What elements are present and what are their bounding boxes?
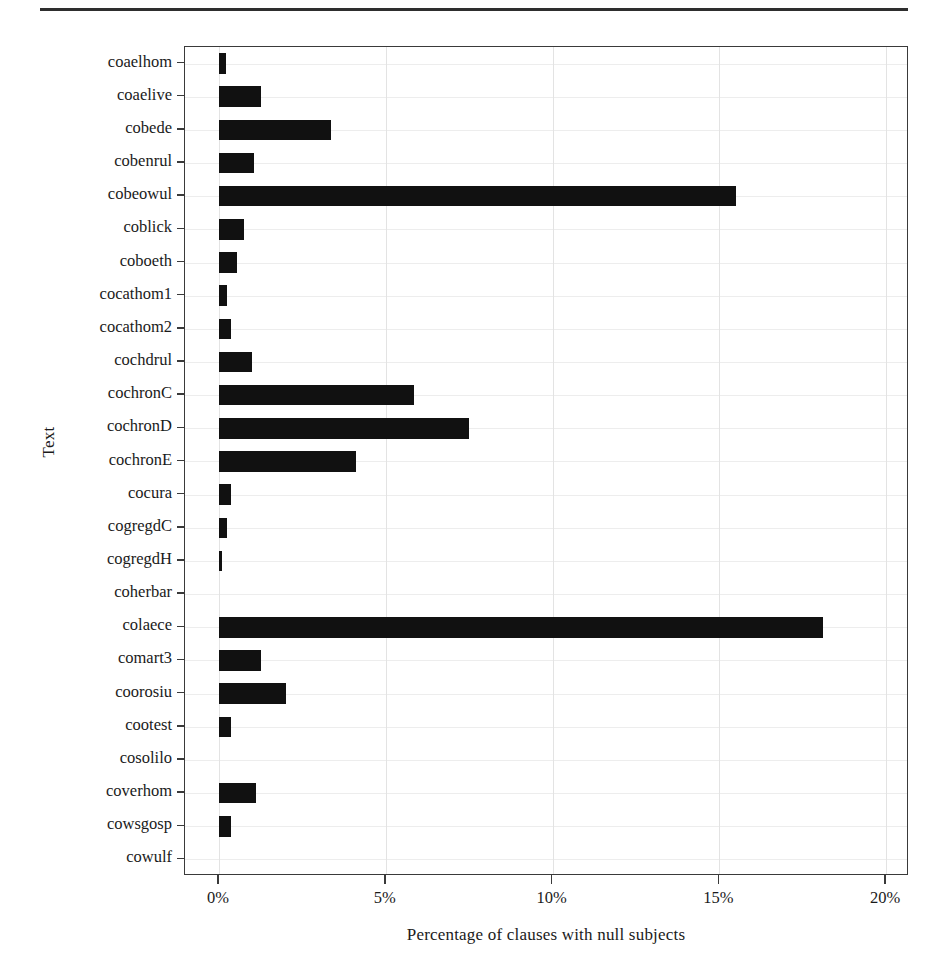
y-tick-mark — [177, 825, 184, 827]
y-tick-mark — [177, 725, 184, 727]
bar-cocura — [219, 484, 231, 505]
y-tick-mark — [177, 626, 184, 628]
y-tick-mark — [177, 427, 184, 429]
y-tick-label-cocathom2: cocathom2 — [100, 319, 184, 336]
bar-cochdrul — [219, 352, 252, 373]
bar-cobede — [219, 120, 331, 141]
y-tick-mark — [177, 128, 184, 130]
bar-coverhom — [219, 783, 256, 804]
y-tick-label-cogregdC: cogregdC — [108, 518, 184, 535]
bar-coaelhom — [219, 53, 226, 74]
x-tick-mark — [384, 875, 386, 884]
y-tick-mark — [177, 261, 184, 263]
y-tick-mark — [177, 493, 184, 495]
y-tick-label-cocura: cocura — [128, 485, 184, 502]
y-tick-label-coaelhom: coaelhom — [108, 54, 184, 71]
bar-cochronE — [219, 451, 356, 472]
y-tick-label-cochdrul: cochdrul — [114, 352, 184, 369]
bar-row — [185, 617, 907, 638]
bar-row — [185, 551, 907, 572]
y-tick-label-coherbar: coherbar — [114, 584, 184, 601]
y-tick-mark — [177, 460, 184, 462]
x-tick-mark — [551, 875, 553, 884]
bar-colaece — [219, 617, 823, 638]
y-tick-mark — [177, 692, 184, 694]
bar-row — [185, 86, 907, 107]
bar-row — [185, 484, 907, 505]
y-tick-mark — [177, 526, 184, 528]
y-tick-label-cocathom1: cocathom1 — [100, 286, 184, 303]
y-tick-mark — [177, 62, 184, 64]
y-tick-label-cochronC: cochronC — [108, 385, 184, 402]
y-axis-tick-labels: coaelhomcoaelivecobedecobenrulcobeowulco… — [0, 46, 184, 875]
y-tick-mark — [177, 327, 184, 329]
top-horizontal-rule — [40, 8, 908, 11]
bar-row — [185, 783, 907, 804]
x-tick-label: 15% — [703, 888, 733, 908]
bar-cochronD — [219, 418, 469, 439]
y-tick-mark — [177, 393, 184, 395]
bar-row — [185, 252, 907, 273]
bar-cowsgosp — [219, 816, 231, 837]
bar-row — [185, 418, 907, 439]
bar-row — [185, 53, 907, 74]
bar-row — [185, 285, 907, 306]
y-tick-mark — [177, 791, 184, 793]
bar-cogregdC — [219, 518, 227, 539]
y-tick-label-cosolilo: cosolilo — [120, 750, 184, 767]
bar-row — [185, 120, 907, 141]
x-tick-mark — [718, 875, 720, 884]
x-tick-mark — [884, 875, 886, 884]
y-tick-mark — [177, 161, 184, 163]
y-tick-mark — [177, 858, 184, 860]
bar-coorosiu — [219, 683, 286, 704]
bar-row — [185, 650, 907, 671]
bar-row — [185, 816, 907, 837]
y-tick-mark — [177, 360, 184, 362]
bar-coaelive — [219, 86, 261, 107]
y-tick-label-cootest: cootest — [125, 717, 184, 734]
y-tick-label-cowsgosp: cowsgosp — [107, 816, 184, 833]
y-tick-mark — [177, 228, 184, 230]
bar-cogregdH — [219, 551, 222, 572]
bar-coblick — [219, 219, 244, 240]
bar-cobenrul — [219, 153, 254, 174]
bar-row — [185, 319, 907, 340]
y-tick-mark — [177, 758, 184, 760]
y-tick-label-cogregdH: cogregdH — [107, 551, 184, 568]
bar-row — [185, 352, 907, 373]
plot-area — [184, 46, 908, 875]
x-axis-ticks: 0%5%10%15%20% — [184, 875, 908, 915]
y-tick-label-cochronD: cochronD — [107, 418, 184, 435]
bar-row — [185, 717, 907, 738]
y-tick-label-coaelive: coaelive — [117, 87, 184, 104]
bar-cocathom1 — [219, 285, 227, 306]
x-axis-title: Percentage of clauses with null subjects — [184, 925, 908, 945]
y-tick-label-cobenrul: cobenrul — [114, 153, 184, 170]
bar-row — [185, 518, 907, 539]
bar-row — [185, 153, 907, 174]
x-tick-label: 20% — [870, 888, 900, 908]
y-tick-label-cobeowul: cobeowul — [108, 186, 184, 203]
y-tick-label-coblick: coblick — [123, 219, 184, 236]
y-tick-label-cowulf: cowulf — [126, 849, 184, 866]
y-tick-mark — [177, 194, 184, 196]
y-tick-mark — [177, 592, 184, 594]
bar-comart3 — [219, 650, 261, 671]
bar-row — [185, 451, 907, 472]
bar-row — [185, 219, 907, 240]
bar-row — [185, 186, 907, 207]
bar-cootest — [219, 717, 231, 738]
bar-row — [185, 385, 907, 406]
bar-cochronC — [219, 385, 414, 406]
y-tick-label-cochronE: cochronE — [109, 452, 184, 469]
y-tick-label-cobede: cobede — [125, 120, 184, 137]
y-tick-mark — [177, 559, 184, 561]
y-tick-label-colaece: colaece — [123, 617, 184, 634]
y-tick-mark — [177, 294, 184, 296]
bar-cocathom2 — [219, 319, 231, 340]
bars-layer — [185, 47, 907, 874]
bar-coboeth — [219, 252, 237, 273]
x-tick-mark — [217, 875, 219, 884]
y-tick-mark — [177, 95, 184, 97]
